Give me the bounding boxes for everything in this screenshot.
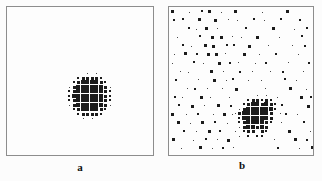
panel-b <box>168 6 314 156</box>
data-point <box>94 107 98 111</box>
data-point <box>217 28 218 29</box>
data-point <box>306 139 308 141</box>
data-point <box>172 63 173 64</box>
data-point <box>241 37 242 38</box>
data-point <box>85 107 89 111</box>
data-point <box>299 148 300 149</box>
data-point <box>270 99 272 101</box>
data-point <box>274 103 276 105</box>
data-point <box>311 146 314 149</box>
data-point <box>259 54 260 55</box>
data-point <box>73 108 75 110</box>
data-point <box>223 113 226 116</box>
data-point <box>232 36 233 37</box>
data-point <box>204 105 205 106</box>
data-point <box>214 121 216 123</box>
data-point <box>104 108 106 110</box>
data-point <box>193 61 195 63</box>
data-point <box>104 90 107 93</box>
data-point <box>255 63 256 64</box>
data-point <box>205 27 208 30</box>
data-point <box>243 103 245 105</box>
data-point <box>208 130 211 133</box>
data-point <box>272 27 275 30</box>
data-point <box>260 125 264 129</box>
data-point <box>261 135 263 137</box>
data-point <box>183 130 185 132</box>
data-point <box>77 113 79 115</box>
data-point <box>178 104 180 106</box>
data-point <box>270 117 273 120</box>
data-point <box>306 89 307 90</box>
data-point <box>85 89 89 93</box>
data-point <box>229 97 230 98</box>
data-point <box>288 62 289 63</box>
data-point <box>229 62 231 64</box>
data-point <box>252 130 255 133</box>
data-point <box>275 53 277 55</box>
data-point <box>222 88 223 89</box>
data-point <box>201 121 204 124</box>
data-point <box>220 36 223 39</box>
data-point <box>253 18 255 20</box>
data-point <box>303 121 305 123</box>
data-point <box>266 95 267 96</box>
data-point <box>300 96 303 99</box>
data-point <box>196 53 198 55</box>
data-point <box>264 102 268 106</box>
data-point <box>257 95 258 96</box>
data-point <box>100 108 103 111</box>
data-point <box>225 53 226 54</box>
data-point <box>212 148 213 149</box>
data-point <box>99 98 103 102</box>
data-point <box>109 90 111 92</box>
data-point <box>85 80 89 84</box>
data-point <box>199 146 202 149</box>
data-point <box>213 114 214 115</box>
data-point <box>301 35 303 37</box>
data-point <box>92 118 93 119</box>
data-point <box>171 10 174 13</box>
data-point <box>186 114 187 115</box>
data-point <box>82 113 85 116</box>
data-point <box>261 130 264 133</box>
data-point <box>274 139 275 140</box>
data-point <box>255 102 259 106</box>
data-point <box>232 114 233 115</box>
data-point <box>100 113 102 115</box>
data-point <box>68 95 70 97</box>
data-point <box>109 95 111 97</box>
data-point <box>184 52 187 55</box>
data-point <box>306 27 308 29</box>
data-point <box>233 44 235 46</box>
data-point <box>280 18 282 20</box>
data-point <box>243 53 246 56</box>
data-point <box>188 27 190 29</box>
data-point <box>177 37 178 38</box>
data-point <box>182 44 184 46</box>
data-point <box>109 99 111 101</box>
data-point <box>233 147 234 148</box>
data-point <box>246 120 250 124</box>
data-point <box>256 126 259 129</box>
data-point <box>175 79 177 81</box>
data-point <box>76 103 80 107</box>
data-point <box>173 19 175 21</box>
data-point <box>265 121 268 124</box>
data-point <box>182 18 184 20</box>
data-point <box>95 113 98 116</box>
data-point <box>96 73 97 74</box>
data-point <box>310 96 312 98</box>
data-point <box>281 122 282 123</box>
data-point <box>230 105 232 107</box>
data-point <box>239 127 240 128</box>
data-point <box>215 53 218 56</box>
data-point <box>277 147 279 149</box>
data-point <box>228 19 229 20</box>
data-point <box>270 112 273 115</box>
data-point <box>207 53 210 56</box>
data-point <box>110 87 111 88</box>
data-point <box>280 113 281 114</box>
data-point <box>255 111 259 115</box>
data-point <box>172 138 175 141</box>
